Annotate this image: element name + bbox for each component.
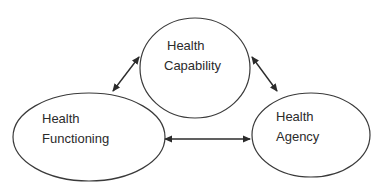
health-triangle-diagram: Health Capability Health Functioning Hea… [0,0,381,188]
edge-capability-agency [252,57,277,91]
capability-label-line1: Health [167,38,205,53]
functioning-label-line1: Health [42,111,80,126]
node-health-capability: Health Capability [140,18,250,118]
edge-functioning-capability [113,57,139,91]
functioning-label-line2: Functioning [42,131,109,146]
node-health-functioning: Health Functioning [13,93,165,181]
agency-label-line2: Agency [276,129,320,144]
node-health-agency: Health Agency [252,93,370,177]
capability-label-line2: Capability [164,58,222,73]
agency-label-line1: Health [276,109,314,124]
